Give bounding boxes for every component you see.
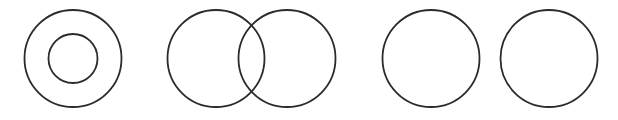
circle-group-concentric (25, 10, 122, 107)
concentric-circle-2 (49, 34, 98, 83)
overlapping-circle-2 (239, 10, 336, 107)
circle-group-overlapping (168, 10, 336, 107)
separate-circle-2 (501, 10, 598, 107)
diagram-svg (0, 0, 618, 120)
circle-relationship-diagram (0, 0, 618, 120)
separate-circle-1 (383, 10, 480, 107)
concentric-circle-1 (25, 10, 122, 107)
circle-group-separate (383, 10, 598, 107)
overlapping-circle-1 (168, 10, 265, 107)
